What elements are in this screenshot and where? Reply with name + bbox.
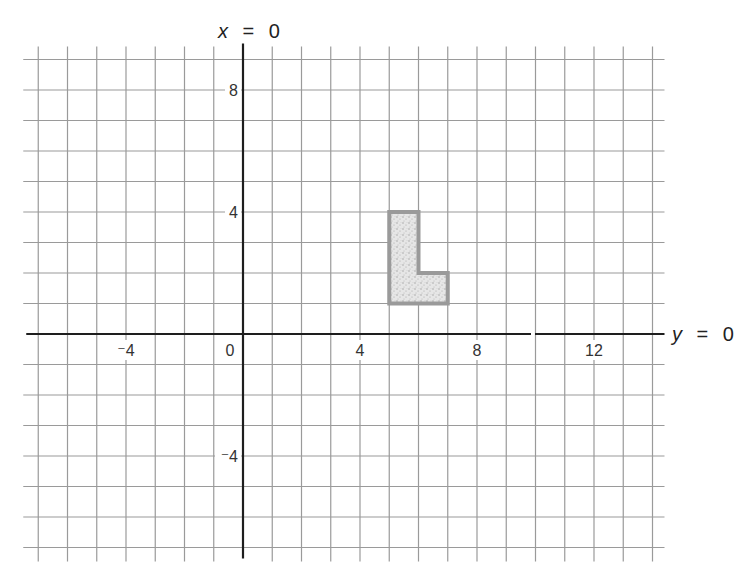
x-tick-label: ⁻4 — [117, 342, 134, 359]
grid-lines — [23, 47, 664, 562]
y-tick-label: ⁻4 — [221, 448, 238, 465]
vertical-axis-title: x = 0 — [217, 20, 280, 42]
l-shape-polygon — [389, 212, 448, 304]
coordinate-grid-plot: ⁻40481284⁻4 x = 0 y = 0 — [0, 0, 750, 579]
y-tick-label: 4 — [229, 204, 238, 221]
x-tick-label: 8 — [473, 342, 482, 359]
axis-titles: x = 0 y = 0 — [217, 20, 734, 345]
shapes — [389, 212, 448, 304]
x-tick-label: 4 — [356, 342, 365, 359]
x-tick-label: 0 — [226, 342, 235, 359]
x-tick-label: 12 — [585, 342, 603, 359]
y-tick-label: 8 — [229, 82, 238, 99]
horizontal-axis-title: y = 0 — [670, 323, 734, 345]
